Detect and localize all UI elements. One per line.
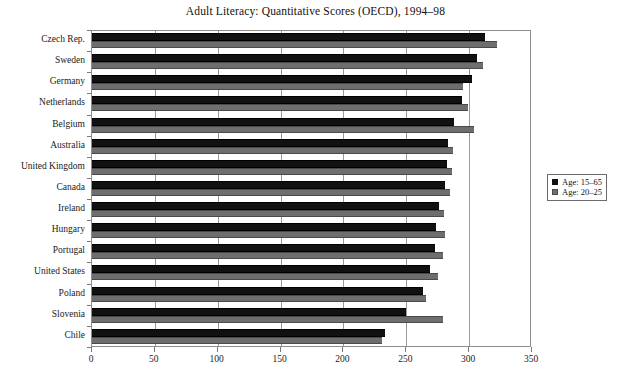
x-axis-tick-mark-350 — [531, 347, 532, 352]
y-axis-label-netherlands: Netherlands — [0, 97, 85, 107]
x-axis-tick-label-50: 50 — [149, 354, 159, 364]
x-axis-tick-label-250: 250 — [398, 354, 412, 364]
y-axis-label-germany: Germany — [0, 76, 85, 86]
y-axis-tick — [87, 157, 91, 158]
y-axis-tick — [87, 220, 91, 221]
y-axis-tick — [87, 326, 91, 327]
y-axis-label-canada: Canada — [0, 182, 85, 192]
x-axis-ticks: 050100150200250300350 — [0, 347, 631, 377]
chart-container: Adult Literacy: Quantitative Scores (OEC… — [0, 0, 631, 382]
y-axis-label-united-kingdom: United Kingdom — [0, 161, 85, 171]
x-axis-tick-label-300: 300 — [461, 354, 475, 364]
y-axis-label-ireland: Ireland — [0, 203, 85, 213]
y-axis-label-poland: Poland — [0, 288, 85, 298]
y-axis-tick — [87, 262, 91, 263]
legend-swatch-icon — [552, 189, 558, 195]
legend-entry-1: Age: 15–65 — [552, 177, 602, 187]
x-axis-tick-mark-300 — [468, 347, 469, 352]
y-axis-label-czech-rep: Czech Rep. — [0, 34, 85, 44]
x-axis-tick-label-200: 200 — [335, 354, 349, 364]
chart-legend: Age: 15–65Age: 20–25 — [547, 174, 607, 201]
y-axis-label-slovenia: Slovenia — [0, 309, 85, 319]
x-axis-tick-label-150: 150 — [272, 354, 286, 364]
y-axis-tick — [87, 136, 91, 137]
x-axis-tick-label-0: 0 — [89, 354, 94, 364]
legend-swatch-icon — [552, 179, 558, 185]
legend-entry-2: Age: 20–25 — [552, 187, 602, 197]
y-axis-label-australia: Australia — [0, 140, 85, 150]
y-axis-tick — [87, 30, 91, 31]
y-axis-tick — [87, 72, 91, 73]
y-axis-label-sweden: Sweden — [0, 55, 85, 65]
x-axis-tick-label-100: 100 — [210, 354, 224, 364]
y-axis-tick — [87, 51, 91, 52]
x-axis-tick-mark-100 — [217, 347, 218, 352]
x-axis-tick-mark-200 — [342, 347, 343, 352]
y-axis-label-belgium: Belgium — [0, 119, 85, 129]
y-axis-tick — [87, 178, 91, 179]
x-axis-tick-mark-150 — [280, 347, 281, 352]
y-axis-tick — [87, 115, 91, 116]
y-axis-label-chile: Chile — [0, 330, 85, 340]
y-axis-label-portugal: Portugal — [0, 245, 85, 255]
x-axis-tick-mark-250 — [405, 347, 406, 352]
x-axis-tick-mark-0 — [91, 347, 92, 352]
x-axis-tick-label-350: 350 — [524, 354, 538, 364]
chart-title: Adult Literacy: Quantitative Scores (OEC… — [0, 5, 631, 17]
y-axis-tick — [87, 93, 91, 94]
legend-label: Age: 15–65 — [562, 177, 602, 187]
y-axis-label-hungary: Hungary — [0, 224, 85, 234]
y-axis-tick — [87, 199, 91, 200]
legend-label: Age: 20–25 — [562, 187, 602, 197]
y-axis-tick — [87, 284, 91, 285]
y-axis-category-labels: Czech Rep.SwedenGermanyNetherlandsBelgiu… — [0, 30, 631, 347]
y-axis-label-united-states: United States — [0, 266, 85, 276]
y-axis-tick — [87, 241, 91, 242]
x-axis-tick-mark-50 — [154, 347, 155, 352]
y-axis-tick — [87, 305, 91, 306]
